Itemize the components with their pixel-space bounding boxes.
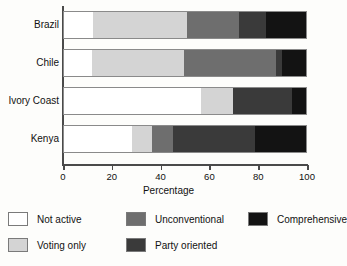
x-tick-label: 60 (204, 171, 215, 182)
category-label-kenya: Kenya (1, 133, 59, 144)
legend-item-voting-only[interactable]: Voting only (8, 238, 126, 252)
legend-swatch-party-oriented (126, 238, 146, 252)
bar-segment-voting-only (132, 126, 153, 152)
x-tick-label: 40 (155, 171, 166, 182)
legend-item-comprehensive[interactable]: Comprehensive (248, 212, 347, 226)
bar-segment-not-active (64, 12, 93, 38)
bar-segment-unconventional (187, 12, 239, 38)
legend-swatch-unconventional (126, 212, 146, 226)
legend-item-not-active[interactable]: Not active (8, 212, 126, 226)
x-tick-label: 100 (299, 171, 315, 182)
bar-row-chile (63, 49, 307, 77)
bar-row-ivory-coast (63, 87, 307, 115)
bar-segment-voting-only (92, 50, 184, 76)
bar-segment-party-oriented (173, 126, 255, 152)
x-tick-label: 80 (253, 171, 264, 182)
bar-segment-not-active (64, 126, 132, 152)
x-tick (161, 165, 163, 170)
x-tick (112, 165, 114, 170)
bar-row-brazil (63, 11, 307, 39)
category-label-chile: Chile (1, 57, 59, 68)
x-axis-title: Percentage (0, 185, 337, 196)
bar-segment-party-oriented (233, 88, 291, 114)
bar-segment-voting-only (201, 88, 234, 114)
legend-item-unconventional[interactable]: Unconventional (126, 212, 248, 226)
bar-segment-comprehensive (266, 12, 306, 38)
legend-label: Party oriented (155, 240, 217, 251)
bar-segment-party-oriented (239, 12, 266, 38)
legend-row: Not activeUnconventionalComprehensive (8, 206, 333, 232)
chart-legend: Not activeUnconventionalComprehensiveVot… (8, 206, 333, 258)
bar-row-kenya (63, 125, 307, 153)
x-tick-label: 0 (60, 171, 65, 182)
legend-item-party-oriented[interactable]: Party oriented (126, 238, 248, 252)
x-tick (63, 165, 65, 170)
bar-segment-comprehensive (282, 50, 306, 76)
bar-segment-comprehensive (292, 88, 307, 114)
legend-label: Comprehensive (277, 214, 347, 225)
bar-segment-voting-only (93, 12, 187, 38)
bar-segment-not-active (64, 88, 201, 114)
category-label-ivory-coast: Ivory Coast (1, 95, 59, 106)
legend-row: Voting onlyParty oriented (8, 232, 333, 258)
bar-segment-not-active (64, 50, 92, 76)
bar-segment-unconventional (184, 50, 276, 76)
legend-swatch-comprehensive (248, 212, 268, 226)
x-axis-line (62, 164, 308, 166)
category-label-brazil: Brazil (1, 19, 59, 30)
legend-swatch-not-active (8, 212, 28, 226)
bar-segment-unconventional (152, 126, 173, 152)
x-tick-label: 20 (107, 171, 118, 182)
x-tick (307, 165, 309, 170)
legend-label: Unconventional (155, 214, 224, 225)
x-tick (209, 165, 211, 170)
legend-swatch-voting-only (8, 238, 28, 252)
legend-label: Voting only (37, 240, 86, 251)
bar-segment-comprehensive (255, 126, 306, 152)
x-tick (258, 165, 260, 170)
legend-label: Not active (37, 214, 81, 225)
